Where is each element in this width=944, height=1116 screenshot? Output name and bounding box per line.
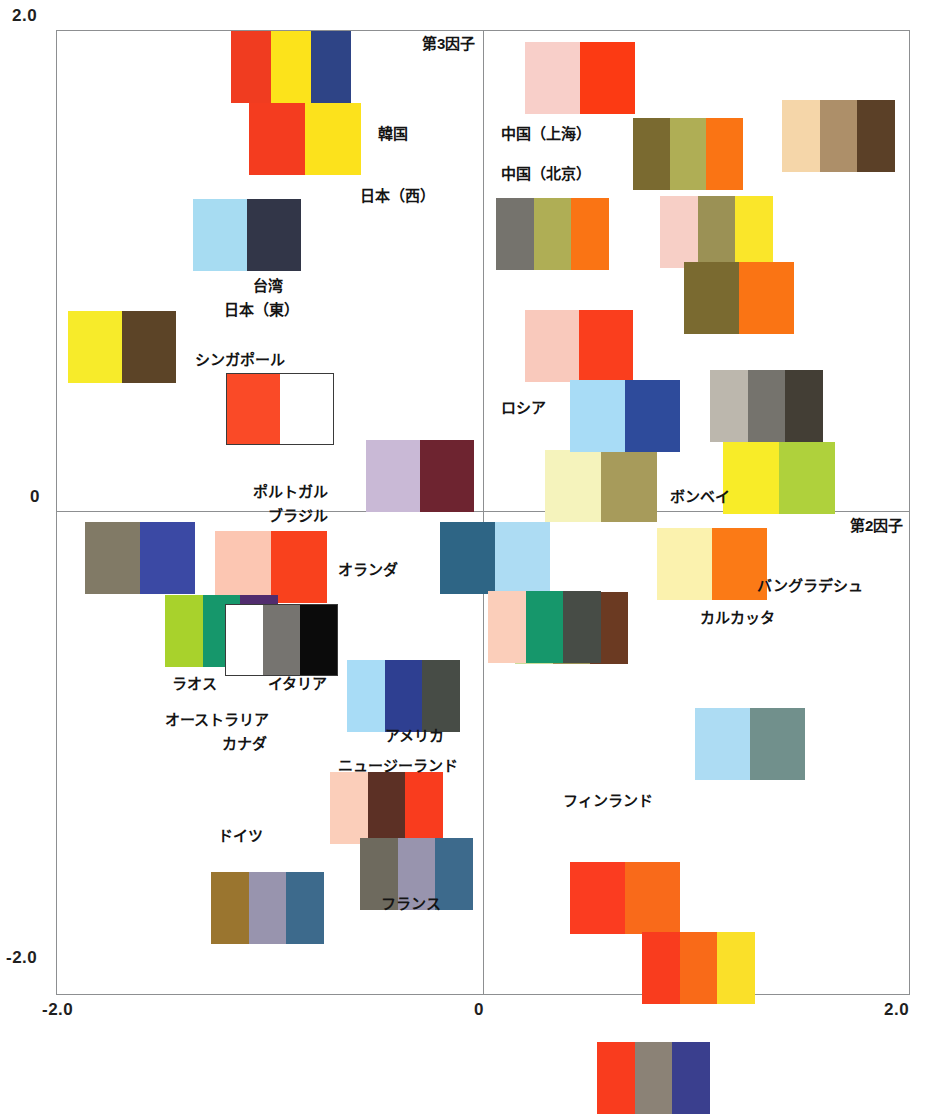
x-tick-right: 2.0 xyxy=(884,1000,909,1020)
swatch-olive-orange-band-2 xyxy=(739,262,794,334)
swatch-portugal-band-2 xyxy=(420,440,474,512)
y-tick-bottom: -2.0 xyxy=(6,948,37,968)
swatch-america-band-2 xyxy=(385,660,423,732)
swatch-yellow-green xyxy=(723,442,835,514)
swatch-australia-canada-band-1 xyxy=(85,522,140,594)
swatch-russia-band-band-2 xyxy=(579,310,633,382)
swatch-beige-triple-band-3 xyxy=(857,100,895,172)
swatch-brazil-band-2 xyxy=(271,531,327,603)
point-label-19: フランス xyxy=(381,896,441,911)
y-tick-zero: 0 xyxy=(30,487,40,507)
swatch-japan-west-band-1 xyxy=(193,199,247,271)
swatch-grey-olive-orange-band-1 xyxy=(496,198,534,270)
swatch-italy xyxy=(225,604,338,676)
swatch-italy-band-3 xyxy=(300,604,338,676)
swatch-korea-upper-band-2 xyxy=(271,31,311,103)
x-tick-left: -2.0 xyxy=(42,1000,73,1020)
swatch-singapore xyxy=(226,373,334,445)
swatch-bottom-outside-band-3 xyxy=(672,1042,710,1114)
x-tick-zero: 0 xyxy=(474,1000,484,1020)
swatch-russia-flag-band-1 xyxy=(570,380,625,452)
point-label-3: 日本（東） xyxy=(224,302,299,317)
point-label-5: ポルトガル xyxy=(253,484,328,499)
point-label-9: ロシア xyxy=(501,400,546,415)
swatch-laos-band-1 xyxy=(165,595,203,667)
swatch-bombay-band-1 xyxy=(545,450,601,522)
swatch-netherlands-band-2 xyxy=(495,522,550,594)
point-label-10: ボンベイ xyxy=(670,489,730,504)
point-label-20: バングラデシュ xyxy=(757,578,863,593)
point-label-1: 日本（西） xyxy=(360,188,435,203)
point-label-14: オーストラリア xyxy=(165,712,269,727)
point-label-6: ブラジル xyxy=(268,508,328,523)
point-label-0: 韓国 xyxy=(378,126,408,141)
swatch-japan-west xyxy=(193,199,301,271)
point-label-7: 中国（上海） xyxy=(501,126,591,141)
swatch-beige-triple xyxy=(782,100,895,172)
swatch-japan-west-band-2 xyxy=(247,199,301,271)
swatch-yellow-green-band-1 xyxy=(723,442,779,514)
chart-canvas: 2.0 0 -2.0 -2.0 0 2.0 第3因子 第2因子 韓国日本（西）台… xyxy=(0,0,944,1116)
swatch-red-orange-yellow-band-2 xyxy=(680,932,718,1004)
swatch-korea-upper xyxy=(231,31,351,103)
swatch-taiwan-japan-east xyxy=(68,311,176,383)
swatch-green-flag-band-3 xyxy=(563,591,601,663)
y-tick-top: 2.0 xyxy=(12,6,37,26)
swatch-bottom-outside-band-2 xyxy=(635,1042,673,1114)
swatch-grey-triple-band-2 xyxy=(748,370,786,442)
point-label-16: アメリカ xyxy=(385,728,444,743)
point-label-21: カルカッタ xyxy=(700,610,775,625)
swatch-america-band-3 xyxy=(422,660,460,732)
swatch-brazil-band-1 xyxy=(215,531,271,603)
swatch-china-beijing-band-2 xyxy=(670,118,707,190)
swatch-russia-flag xyxy=(570,380,680,452)
swatch-korea-upper-band-1 xyxy=(231,31,271,103)
swatch-green-flag-band-1 xyxy=(488,591,526,663)
swatch-korea xyxy=(249,103,361,175)
swatch-korea-upper-band-3 xyxy=(311,31,351,103)
swatch-taiwan-japan-east-band-2 xyxy=(122,311,176,383)
swatch-australia-canada xyxy=(85,522,195,594)
swatch-red-orange-lower-band-2 xyxy=(625,862,680,934)
swatch-america-band-1 xyxy=(347,660,385,732)
swatch-newzealand xyxy=(330,772,443,844)
point-label-8: 中国（北京） xyxy=(501,166,591,181)
point-label-13: イタリア xyxy=(268,676,327,691)
swatch-singapore-band-1 xyxy=(226,373,280,445)
swatch-red-orange-yellow-band-1 xyxy=(642,932,680,1004)
swatch-beige-triple-band-2 xyxy=(820,100,858,172)
swatch-beige-triple-band-1 xyxy=(782,100,820,172)
swatch-italy-band-1 xyxy=(225,604,263,676)
point-label-12: ラオス xyxy=(172,676,217,691)
swatch-red-orange-yellow-band-3 xyxy=(717,932,755,1004)
swatch-red-orange-lower xyxy=(570,862,680,934)
swatch-bangladesh xyxy=(657,528,767,600)
swatch-korea-band-1 xyxy=(249,103,305,175)
swatch-newzealand-band-1 xyxy=(330,772,368,844)
swatch-red-orange-lower-band-1 xyxy=(570,862,625,934)
swatch-newzealand-band-3 xyxy=(405,772,443,844)
swatch-russia-flag-band-2 xyxy=(625,380,680,452)
swatch-red-orange-yellow xyxy=(642,932,755,1004)
swatch-newzealand-band-2 xyxy=(368,772,406,844)
vertical-zero-axis xyxy=(483,30,484,995)
swatch-germany-band-1 xyxy=(211,872,249,944)
swatch-taiwan-japan-east-band-1 xyxy=(68,311,122,383)
swatch-grey-triple-band-3 xyxy=(785,370,823,442)
swatch-america xyxy=(347,660,460,732)
swatch-bottom-outside xyxy=(597,1042,710,1114)
swatch-olive-orange xyxy=(684,262,794,334)
swatch-bottom-outside-band-1 xyxy=(597,1042,635,1114)
x-axis-label: 第2因子 xyxy=(850,514,903,535)
swatch-green-flag-band-2 xyxy=(526,591,564,663)
swatch-olive-orange-band-1 xyxy=(684,262,739,334)
swatch-china-shanghai xyxy=(525,42,635,114)
swatch-germany-band-3 xyxy=(286,872,324,944)
swatch-bombay xyxy=(545,450,657,522)
swatch-netherlands xyxy=(440,522,550,594)
swatch-portugal xyxy=(366,440,474,512)
swatch-germany xyxy=(211,872,324,944)
swatch-grey-triple xyxy=(710,370,823,442)
swatch-russia-band-band-1 xyxy=(525,310,579,382)
swatch-netherlands-band-1 xyxy=(440,522,495,594)
